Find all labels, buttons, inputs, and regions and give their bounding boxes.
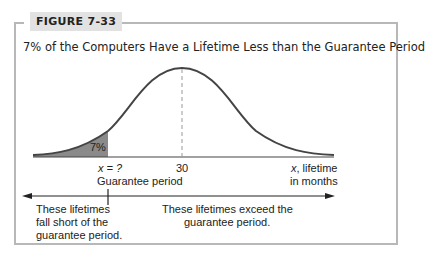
guarantee-period-label: Guarantee period bbox=[97, 175, 183, 188]
guarantee-x-label: x = ? bbox=[98, 162, 122, 175]
right-arrowhead-icon bbox=[325, 193, 335, 199]
shaded-percent-label: 7% bbox=[90, 141, 106, 154]
left-note-line2: fall short of the bbox=[36, 216, 108, 229]
right-note-line1: These lifetimes exceed the bbox=[162, 203, 293, 216]
left-note-line3: guarantee period. bbox=[36, 229, 122, 242]
mean-tick-label: 30 bbox=[176, 162, 188, 175]
normal-curve bbox=[33, 68, 334, 155]
left-arrowhead-icon bbox=[22, 193, 32, 199]
left-note-line1: These lifetimes bbox=[36, 203, 110, 216]
right-note-line2: guarantee period. bbox=[184, 216, 270, 229]
x-axis-label-line2: in months bbox=[290, 175, 338, 188]
x-axis-label-line1: x, lifetime bbox=[291, 162, 337, 175]
x-axis-label-rest: , lifetime bbox=[297, 162, 338, 174]
